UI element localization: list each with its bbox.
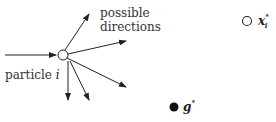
pso-diagram: particle i possible directions x*i g* xyxy=(0,0,276,122)
direction-arrow-down-slant xyxy=(70,61,89,100)
particle-label: particle i xyxy=(5,68,60,82)
possible-directions-label: possible directions xyxy=(100,6,161,34)
global-best-marker xyxy=(170,103,179,112)
particle-circle xyxy=(58,50,68,60)
direction-arrow-up-right xyxy=(65,14,89,50)
direction-arrow-right xyxy=(68,41,126,54)
personal-best-marker xyxy=(243,17,252,26)
personal-best-label: x*i xyxy=(257,12,269,30)
global-best-label: g* xyxy=(183,98,195,114)
